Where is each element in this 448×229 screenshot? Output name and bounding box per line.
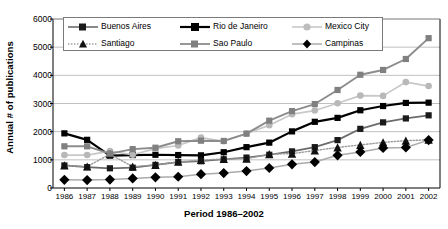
legend-item-buenos-aires[interactable]: Buenos Aires xyxy=(64,21,176,33)
x-tick-label: 1998 xyxy=(329,193,347,201)
x-tick-label: 1994 xyxy=(238,193,256,201)
x-tick-label: 2000 xyxy=(374,193,392,201)
legend-label-rio-de-janeiro: Rio de Janeiro xyxy=(213,22,268,31)
legend-label-sao-paulo: Sao Paulo xyxy=(213,39,252,48)
x-tick-label: 1995 xyxy=(260,193,278,201)
legend-swatch-sao-paulo xyxy=(180,38,210,50)
x-tick-label: 1988 xyxy=(101,193,119,201)
legend-label-santiago: Santiago xyxy=(101,39,135,48)
x-tick-label: 1993 xyxy=(215,193,233,201)
legend-item-campinas[interactable]: Campinas xyxy=(288,38,382,50)
x-tick-label: 1999 xyxy=(351,193,369,201)
x-tick-label: 2001 xyxy=(397,193,415,201)
x-tick-label: 1996 xyxy=(283,193,301,201)
x-tick-label: 1989 xyxy=(124,193,142,201)
x-tick-label: 2002 xyxy=(420,193,438,201)
chart-legend: Buenos Aires Rio de Janeiro Mexico City … xyxy=(63,17,383,51)
x-tick-label: 1992 xyxy=(192,193,210,201)
publications-line-chart: Annual # of publications 600050004000300… xyxy=(0,0,448,229)
legend-item-sao-paulo[interactable]: Sao Paulo xyxy=(176,38,288,50)
x-tick-label: 1990 xyxy=(147,193,165,201)
legend-swatch-mexico-city xyxy=(292,21,322,33)
legend-swatch-santiago xyxy=(68,38,98,50)
x-axis-title: Period 1986–2002 xyxy=(0,208,448,219)
legend-label-campinas: Campinas xyxy=(325,39,363,48)
legend-item-rio-de-janeiro[interactable]: Rio de Janeiro xyxy=(176,21,288,33)
legend-swatch-campinas xyxy=(292,38,322,50)
x-axis-tick-labels: 1986198719881989199019911992199319941995… xyxy=(0,193,448,207)
x-tick-label: 1986 xyxy=(55,193,73,201)
legend-label-mexico-city: Mexico City xyxy=(325,22,369,31)
x-tick-label: 1987 xyxy=(78,193,96,201)
legend-label-buenos-aires: Buenos Aires xyxy=(101,22,151,31)
x-tick-label: 1991 xyxy=(169,193,187,201)
legend-swatch-rio-de-janeiro xyxy=(180,21,210,33)
x-tick-label: 1997 xyxy=(306,193,324,201)
legend-swatch-buenos-aires xyxy=(68,21,98,33)
legend-item-santiago[interactable]: Santiago xyxy=(64,38,176,50)
legend-item-mexico-city[interactable]: Mexico City xyxy=(288,21,382,33)
